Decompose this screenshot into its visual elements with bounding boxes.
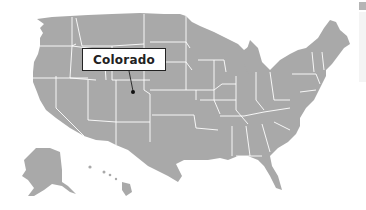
- state-label-callout: Colorado: [82, 48, 166, 71]
- us-map[interactable]: [0, 0, 366, 210]
- scrollbar-track[interactable]: [359, 12, 366, 82]
- scrollbar-thumb[interactable]: [359, 2, 366, 10]
- colorado-marker: [131, 90, 135, 94]
- state-label-text: Colorado: [93, 53, 155, 67]
- alaska-shape: [22, 148, 76, 196]
- hawaii-shape: [88, 165, 132, 196]
